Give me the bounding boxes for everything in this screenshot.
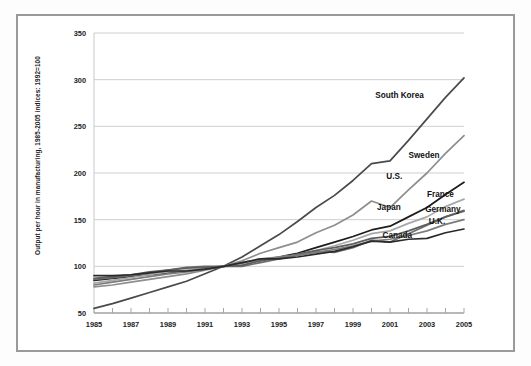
series-label-u-s: U.S.: [386, 172, 402, 181]
y-tick-label: 350: [56, 29, 86, 38]
x-tick-label: 1997: [296, 320, 336, 329]
y-axis-title: Output per hour in manufacturing, 1985-2…: [34, 41, 41, 271]
series-label-sweden: Sweden: [409, 151, 440, 160]
series-label-south-korea: South Korea: [375, 91, 424, 100]
x-tick-label: 2005: [444, 320, 484, 329]
series-label-u-k: U.K.: [429, 217, 445, 226]
y-tick-label: 50: [56, 309, 86, 318]
x-tick-label: 1991: [185, 320, 225, 329]
y-tick-label: 100: [56, 262, 86, 271]
y-tick-label: 250: [56, 122, 86, 131]
x-tick-label: 2001: [370, 320, 410, 329]
series-label-japan: Japan: [377, 203, 401, 212]
y-tick-label: 200: [56, 169, 86, 178]
x-tick-label: 1987: [111, 320, 151, 329]
x-tick-label: 1999: [333, 320, 373, 329]
x-tick-label: 1989: [148, 320, 188, 329]
series-label-canada: Canada: [383, 231, 413, 240]
series-label-germany: Germany: [425, 205, 461, 214]
x-tick-label: 1993: [222, 320, 262, 329]
x-tick-label: 2003: [407, 320, 447, 329]
series-label-france: France: [427, 190, 454, 199]
y-tick-label: 150: [56, 216, 86, 225]
y-tick-label: 300: [56, 76, 86, 85]
x-tick-label: 1985: [74, 320, 114, 329]
x-tick-label: 1995: [259, 320, 299, 329]
chart-figure: Output per hour in manufacturing, 1985-2…: [0, 0, 531, 366]
